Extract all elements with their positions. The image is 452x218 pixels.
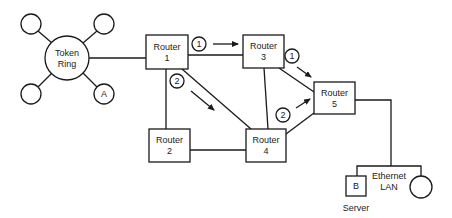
router-2-label: Router bbox=[156, 135, 183, 145]
network-diagram: Token Ring A Router 1 Router 2 Router 3 … bbox=[0, 0, 452, 218]
router-2: Router 2 bbox=[149, 129, 190, 162]
router-1-number: 1 bbox=[164, 53, 169, 63]
router-5-number: 5 bbox=[332, 99, 337, 109]
router-4-label: Router bbox=[252, 135, 279, 145]
ethernet-label-1: Ethernet bbox=[372, 171, 407, 181]
router-4: Router 4 bbox=[246, 129, 286, 162]
router-1: Router 1 bbox=[146, 35, 188, 69]
path-1-label-a: 1 bbox=[196, 39, 201, 49]
server-caption: Server bbox=[343, 203, 370, 213]
station-a-label: A bbox=[101, 89, 107, 99]
ethernet-label-2: LAN bbox=[380, 182, 398, 192]
ring-station-top-left bbox=[21, 14, 41, 34]
router-4-number: 4 bbox=[263, 146, 268, 156]
path-2: 2 2 bbox=[170, 74, 310, 122]
ethernet-station bbox=[410, 176, 432, 198]
link-router3-router5 bbox=[279, 68, 314, 92]
ethernet-lan: B Server Ethernet LAN bbox=[343, 171, 432, 213]
path-1-label-b: 1 bbox=[289, 51, 294, 61]
router-5-label: Router bbox=[321, 88, 348, 98]
token-ring-hub bbox=[45, 36, 89, 80]
server-b-label: B bbox=[353, 181, 359, 191]
ring-station-bottom-left bbox=[21, 84, 41, 104]
router-1-label: Router bbox=[153, 42, 180, 52]
ring-station-top-right bbox=[94, 14, 114, 34]
token-ring-label-1: Token bbox=[55, 48, 79, 58]
link-router1-router4 bbox=[182, 69, 251, 129]
router-3-label: Router bbox=[250, 41, 277, 51]
path-2-label-b: 2 bbox=[280, 110, 285, 120]
path-2-arrow-b bbox=[296, 99, 310, 108]
path-1-arrow-b bbox=[297, 67, 311, 77]
token-ring-label-2: Ring bbox=[58, 59, 77, 69]
router-2-number: 2 bbox=[167, 146, 172, 156]
link-router5-ethernet bbox=[355, 100, 391, 166]
link-router3-router4 bbox=[264, 68, 268, 129]
token-ring: Token Ring A bbox=[21, 14, 114, 104]
router-3-number: 3 bbox=[261, 52, 266, 62]
path-2-label-a: 2 bbox=[174, 76, 179, 86]
router-3: Router 3 bbox=[243, 35, 284, 68]
router-5: Router 5 bbox=[314, 82, 355, 114]
